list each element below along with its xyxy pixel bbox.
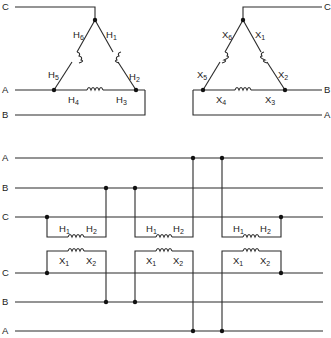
- t3-x2: X2: [260, 256, 270, 267]
- terminal-h4: H4: [68, 95, 79, 106]
- terminal-h6: H6: [73, 30, 84, 41]
- t1-h2: H2: [86, 224, 97, 235]
- t1-x2: X2: [86, 256, 96, 267]
- line-label-b: B: [2, 110, 8, 120]
- t2-x2: X2: [173, 256, 183, 267]
- coil-x5-x6: [222, 52, 228, 63]
- wiring-drawing: [0, 0, 331, 338]
- bus-label-primary-c: C: [2, 212, 9, 222]
- t2-h2: H2: [173, 224, 184, 235]
- line-label-a-right: A: [324, 110, 330, 120]
- terminal-x3: X3: [265, 95, 275, 106]
- t3-h2: H2: [260, 224, 271, 235]
- transformer-delta-delta-diagram: C A B H1 H2 H3 H4 H5 H6 C B A X1 X2 X3 X…: [0, 0, 331, 338]
- transformer-3: [220, 156, 283, 333]
- line-label-c: C: [2, 2, 9, 12]
- coil-h5-h6: [77, 52, 83, 63]
- coil-h1-h2: [115, 52, 121, 63]
- bus-label-primary-b: B: [2, 183, 8, 193]
- terminal-x2: X2: [278, 70, 288, 81]
- terminal-h3: H3: [116, 95, 127, 106]
- terminal-h5: H5: [48, 70, 59, 81]
- t3-h1: H1: [233, 224, 244, 235]
- secondary-delta: [193, 7, 322, 115]
- coil-h3-h4: [87, 88, 103, 91]
- bus-lines: [15, 158, 323, 331]
- transformer-1: [45, 186, 108, 304]
- t1-x1: X1: [59, 256, 69, 267]
- coil-x3-x4: [235, 88, 251, 91]
- t1-h1: H1: [59, 224, 70, 235]
- line-label-b-right: B: [324, 85, 330, 95]
- transformer-2: [133, 156, 195, 333]
- t2-h1: H1: [146, 224, 157, 235]
- terminal-h2: H2: [129, 72, 140, 83]
- t2-x1: X1: [146, 256, 156, 267]
- terminal-x6: X6: [222, 30, 232, 41]
- line-label-a: A: [2, 85, 8, 95]
- t3-x1: X1: [233, 256, 243, 267]
- terminal-x4: X4: [216, 95, 226, 106]
- line-label-c-right: C: [324, 2, 331, 12]
- bus-label-primary-a: A: [2, 153, 8, 163]
- bus-label-secondary-b: B: [2, 297, 8, 307]
- terminal-x1: X1: [255, 30, 265, 41]
- coil-x1-x2: [261, 52, 267, 63]
- bus-label-secondary-c: C: [2, 268, 9, 278]
- terminal-h1: H1: [106, 30, 117, 41]
- terminal-x5: X5: [197, 70, 207, 81]
- bus-label-secondary-a: A: [2, 326, 8, 336]
